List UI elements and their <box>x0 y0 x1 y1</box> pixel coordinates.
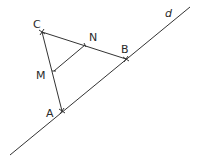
label-d: d <box>165 7 173 20</box>
diagram-svg: C N B M A d <box>0 0 202 162</box>
label-m: M <box>36 69 46 82</box>
label-c: C <box>33 18 41 31</box>
segment-mn <box>54 45 85 71</box>
label-a: A <box>46 107 54 120</box>
label-n: N <box>89 31 97 44</box>
label-b: B <box>121 43 129 56</box>
geometry-diagram: C N B M A d <box>0 0 202 162</box>
